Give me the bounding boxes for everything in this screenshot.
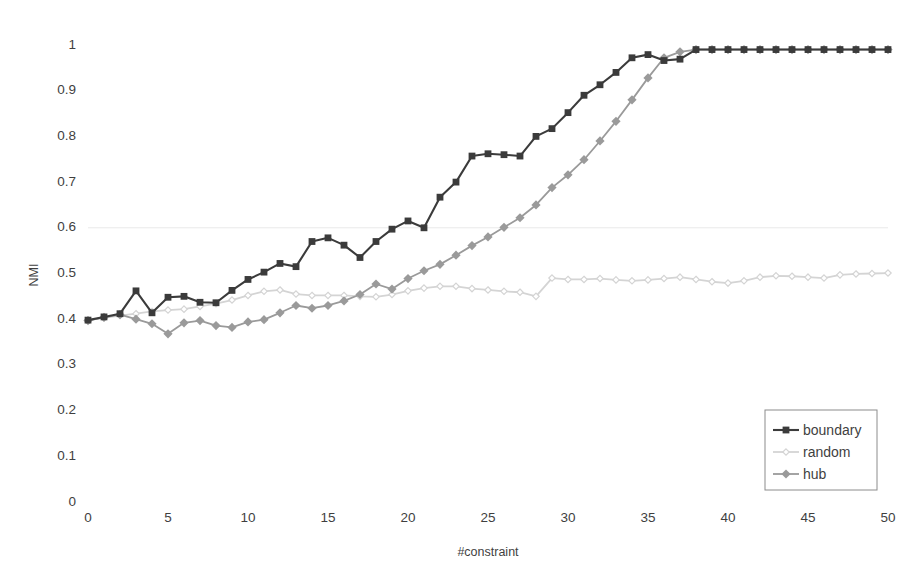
x-axis-title: #constraint <box>457 545 519 559</box>
x-axis-ticks: 05101520253035404550 <box>84 510 895 525</box>
data-point-marker <box>131 315 140 324</box>
data-point-marker <box>549 125 556 132</box>
data-point-marker <box>195 316 204 325</box>
data-point-marker <box>181 306 187 312</box>
data-point-marker <box>437 283 443 289</box>
data-point-marker <box>675 47 684 56</box>
x-tick-label: 45 <box>800 510 815 525</box>
data-point-marker <box>421 224 428 231</box>
data-point-marker <box>693 46 700 53</box>
data-point-marker <box>181 293 188 300</box>
data-point-marker <box>149 309 156 316</box>
data-point-marker <box>405 288 411 294</box>
y-tick-label: 0.3 <box>57 356 76 371</box>
data-point-marker <box>725 280 731 286</box>
data-point-marker <box>101 314 108 321</box>
x-tick-label: 10 <box>240 510 255 525</box>
data-point-marker <box>709 46 716 53</box>
data-point-marker <box>309 238 316 245</box>
data-point-marker <box>403 274 412 283</box>
data-point-marker <box>259 315 268 324</box>
y-axis-ticks: 00.10.20.30.40.50.60.70.80.91 <box>57 37 76 509</box>
data-point-marker <box>837 272 843 278</box>
chart-container: 00.10.20.30.40.50.60.70.80.91 0510152025… <box>0 0 924 578</box>
series-line-boundary <box>88 50 888 321</box>
data-point-marker <box>421 285 427 291</box>
y-tick-label: 1 <box>68 37 76 52</box>
data-point-marker <box>325 292 331 298</box>
data-point-marker <box>419 266 428 275</box>
data-point-marker <box>229 287 236 294</box>
data-point-marker <box>213 299 220 306</box>
legend-label-random: random <box>803 444 850 460</box>
data-point-marker <box>565 276 571 282</box>
data-point-marker <box>885 270 891 276</box>
x-tick-label: 15 <box>320 510 335 525</box>
data-point-marker <box>741 278 747 284</box>
data-point-marker <box>469 285 475 291</box>
series-line-random <box>88 273 888 320</box>
data-point-marker <box>373 238 380 245</box>
legend-label-boundary: boundary <box>803 422 861 438</box>
data-point-marker <box>453 179 460 186</box>
data-point-marker <box>725 46 732 53</box>
x-tick-label: 30 <box>560 510 575 525</box>
data-point-marker <box>485 150 492 157</box>
data-point-marker <box>387 284 396 293</box>
data-point-marker <box>229 297 235 303</box>
series-random <box>85 270 891 323</box>
series-group <box>83 45 892 338</box>
data-point-marker <box>467 241 476 250</box>
x-tick-label: 20 <box>400 510 415 525</box>
data-point-marker <box>293 263 300 270</box>
data-point-marker <box>629 54 636 61</box>
data-point-marker <box>869 270 875 276</box>
data-point-marker <box>613 69 620 76</box>
data-point-marker <box>661 57 668 64</box>
data-point-marker <box>709 279 715 285</box>
data-point-marker <box>371 279 380 288</box>
data-point-marker <box>357 254 364 261</box>
y-tick-label: 0.9 <box>57 82 76 97</box>
data-point-marker <box>227 323 236 332</box>
data-point-marker <box>499 223 508 232</box>
data-point-marker <box>453 283 459 289</box>
data-point-marker <box>517 153 524 160</box>
data-point-marker <box>133 287 140 294</box>
data-point-marker <box>645 277 651 283</box>
data-point-marker <box>645 51 652 58</box>
series-hub <box>83 45 892 338</box>
data-point-marker <box>869 46 876 53</box>
data-point-marker <box>783 427 790 434</box>
y-tick-label: 0 <box>68 494 76 509</box>
data-point-marker <box>821 275 827 281</box>
data-point-marker <box>485 287 491 293</box>
data-point-marker <box>805 46 812 53</box>
data-point-marker <box>757 274 763 280</box>
data-point-marker <box>355 290 364 299</box>
x-tick-label: 35 <box>640 510 655 525</box>
data-point-marker <box>275 308 284 317</box>
data-point-marker <box>805 274 811 280</box>
data-point-marker <box>565 109 572 116</box>
y-axis-title: NMI <box>27 264 41 287</box>
data-point-marker <box>517 289 523 295</box>
data-point-marker <box>277 287 283 293</box>
data-point-marker <box>245 276 252 283</box>
data-point-marker <box>789 273 795 279</box>
data-point-marker <box>165 294 172 301</box>
data-point-marker <box>533 133 540 140</box>
data-point-marker <box>757 46 764 53</box>
y-tick-label: 0.7 <box>57 174 76 189</box>
y-tick-label: 0.6 <box>57 219 76 234</box>
legend-label-hub: hub <box>803 466 827 482</box>
y-tick-label: 0.1 <box>57 448 76 463</box>
data-point-marker <box>581 92 588 99</box>
data-point-marker <box>613 277 619 283</box>
data-point-marker <box>147 319 156 328</box>
data-point-marker <box>661 275 667 281</box>
data-point-marker <box>389 226 396 233</box>
data-point-marker <box>741 46 748 53</box>
data-point-marker <box>773 46 780 53</box>
x-tick-label: 0 <box>84 510 92 525</box>
